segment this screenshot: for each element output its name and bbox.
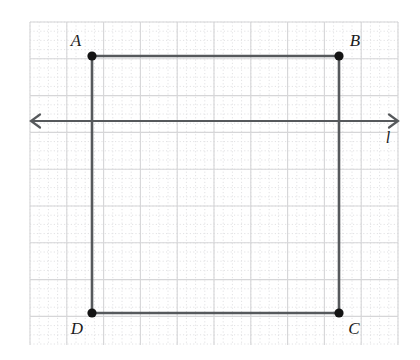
vertex-label-B: B xyxy=(350,31,361,50)
canvas-background xyxy=(0,0,420,360)
vertex-dot-B xyxy=(334,51,343,60)
line-label-l: l xyxy=(386,129,391,146)
vertex-dot-A xyxy=(87,51,96,60)
vertex-dot-C xyxy=(334,308,343,317)
line-label: l xyxy=(386,129,391,146)
geometry-figure: ABCD l xyxy=(0,0,420,360)
geometry-canvas: ABCD l xyxy=(0,0,420,360)
vertex-label-C: C xyxy=(348,319,360,338)
vertex-dot-D xyxy=(87,308,96,317)
vertex-label-A: A xyxy=(70,31,82,50)
vertex-label-D: D xyxy=(70,319,84,338)
